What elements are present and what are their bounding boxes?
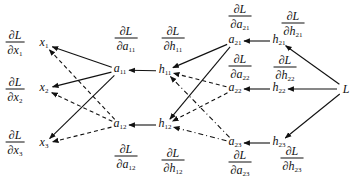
node-x3: x3 [40, 136, 49, 152]
gradient-dL-dh12: ∂L ∂h12 [162, 147, 185, 178]
edge-a11-to-x1 [52, 47, 112, 67]
node-a12: a12 [114, 117, 127, 133]
node-x1: x1 [40, 36, 49, 52]
gradient-dL-dx1: ∂L ∂x1 [6, 29, 25, 60]
gradient-dL-dh23: ∂L ∂h23 [281, 145, 304, 176]
node-x2: x2 [40, 81, 49, 97]
gradient-dL-dx2: ∂L ∂x2 [6, 76, 25, 107]
gradient-dL-dh22: ∂L ∂h22 [274, 54, 297, 85]
edge-h11-to-a11 [129, 70, 156, 71]
edge-a21-to-h12 [170, 47, 230, 119]
edge-a11-to-x2 [53, 72, 112, 87]
gradient-dL-dh11: ∂L ∂h11 [162, 25, 185, 56]
node-h12: h12 [159, 117, 172, 133]
edge-a23-to-h12 [174, 127, 227, 141]
node-h11: h11 [159, 63, 172, 79]
edge-a22-to-h11 [174, 73, 227, 87]
gradient-dL-da21: ∂L ∂a21 [229, 3, 252, 34]
backprop-diagram: x1 x2 x3 a11 a12 h11 h12 a21 a22 a23 h21… [0, 0, 358, 182]
edge-a12-to-x3 [53, 127, 112, 142]
gradient-dL-dh21: ∂L ∂h21 [282, 10, 305, 41]
edge-L-to-h23 [285, 94, 340, 138]
node-a11: a11 [114, 62, 127, 78]
gradient-dL-dx3: ∂L ∂x3 [6, 129, 25, 160]
gradient-dL-da22: ∂L ∂a22 [229, 53, 252, 84]
gradient-dL-da11: ∂L ∂a11 [115, 25, 138, 56]
gradient-dL-da23: ∂L ∂a23 [229, 149, 252, 180]
node-a21: a21 [229, 33, 242, 49]
edge-a22-to-h12 [173, 93, 228, 121]
node-loss-L: L [343, 83, 350, 95]
gradient-dL-da12: ∂L ∂a12 [115, 143, 138, 174]
